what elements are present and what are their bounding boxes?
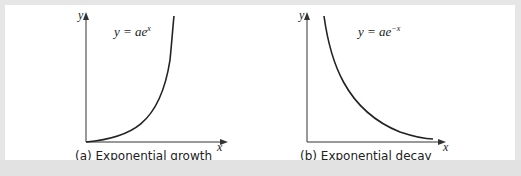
- decay-x-label: x: [443, 140, 448, 155]
- figure-caption-strip: [0, 160, 521, 176]
- decay-equation: y = ae−x: [358, 24, 400, 40]
- decay-y-label: y: [299, 8, 304, 23]
- growth-equation: y = aex: [114, 24, 151, 40]
- growth-y-label: y: [78, 8, 83, 23]
- growth-x-label: x: [217, 140, 222, 155]
- growth-axes: [86, 16, 224, 142]
